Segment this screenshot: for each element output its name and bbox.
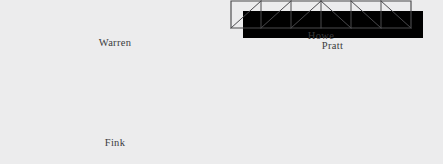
truss-label-warren: Warren xyxy=(99,38,131,49)
truss-label-pratt: Pratt xyxy=(322,41,343,52)
warren-chords xyxy=(17,11,213,35)
howe-verticals xyxy=(261,1,381,28)
fink-truss-drawing xyxy=(8,90,222,136)
truss-label-howe: Howe xyxy=(308,31,334,42)
warren-diagonals xyxy=(17,11,213,35)
warren-truss-drawing xyxy=(16,10,214,36)
truss-diagram-warren: Warren xyxy=(8,10,222,49)
howe-truss-drawing xyxy=(230,0,412,29)
truss-diagram-howe: Howe xyxy=(230,0,412,42)
truss-label-fink: Fink xyxy=(105,138,125,149)
truss-diagram-fink: Fink xyxy=(8,90,222,149)
truss-types-figure: Warren Pratt xyxy=(0,0,443,164)
fink-chords xyxy=(9,91,221,135)
fink-web-members xyxy=(62,91,168,135)
